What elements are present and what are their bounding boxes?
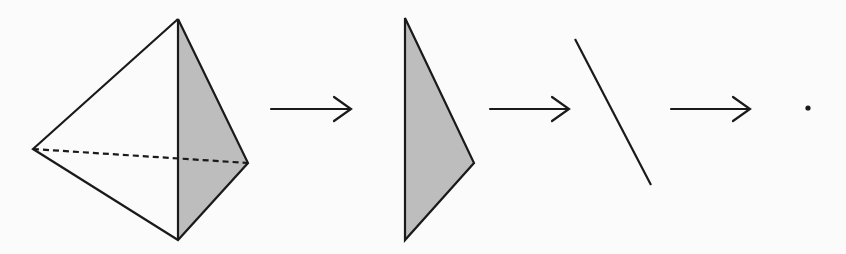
tetrahedron [33,19,248,240]
arrow-3 [671,97,750,121]
tetrahedron-shaded-face [178,19,248,240]
triangle [405,18,474,240]
arrow-2 [490,97,569,121]
diagram-canvas [0,0,846,254]
arrow-1 [271,97,351,121]
segment [575,39,651,185]
point [805,105,810,110]
